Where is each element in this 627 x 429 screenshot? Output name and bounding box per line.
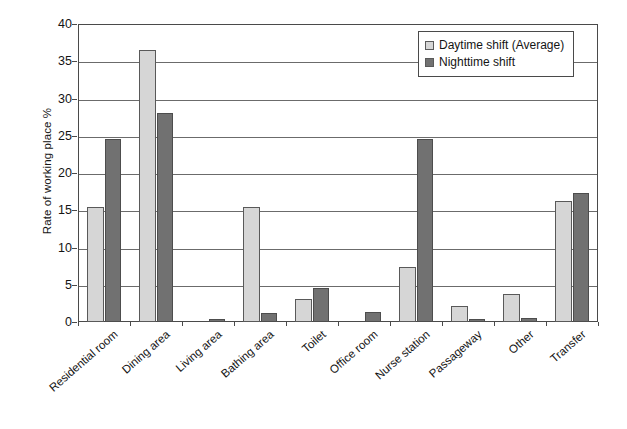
- bar: [87, 207, 104, 322]
- bar: [417, 139, 434, 322]
- x-axis-label: Dining area: [120, 328, 172, 376]
- y-tick-mark: [72, 61, 77, 62]
- bar: [313, 288, 330, 322]
- y-tick-mark: [72, 210, 77, 211]
- y-tick-mark: [72, 136, 77, 137]
- bar: [573, 193, 590, 322]
- y-tick-mark: [72, 285, 77, 286]
- y-tick-label: 5: [42, 278, 72, 292]
- y-tick-mark: [72, 99, 77, 100]
- bar-group: [182, 24, 234, 322]
- x-axis-label-text: Bathing area: [219, 328, 276, 380]
- x-axis-label: Other: [506, 328, 536, 356]
- bar: [139, 50, 156, 322]
- y-tick-label: 40: [42, 17, 72, 31]
- x-tick-mark: [598, 322, 599, 326]
- x-axis-label-text: Nurse station: [373, 328, 432, 382]
- bar: [243, 207, 260, 322]
- legend-label: Daytime shift (Average): [439, 39, 564, 52]
- legend-swatch-icon: [425, 41, 434, 50]
- y-tick-label: 0: [42, 315, 72, 329]
- bar: [157, 113, 174, 322]
- bar-group: [78, 24, 130, 322]
- x-axis-label-text: Residential room: [47, 328, 120, 394]
- x-axis-labels: Residential roomDining areaLiving areaBa…: [78, 322, 598, 429]
- bar-group: [286, 24, 338, 322]
- bar: [365, 312, 382, 322]
- legend-item: Nighttime shift: [425, 54, 564, 71]
- legend-swatch-icon: [425, 58, 434, 67]
- legend-item: Daytime shift (Average): [425, 37, 564, 54]
- bar: [105, 139, 122, 322]
- bar-group: [130, 24, 182, 322]
- x-axis-label-text: Dining area: [120, 328, 172, 376]
- x-axis-label-text: Toilet: [300, 328, 328, 355]
- x-axis-label: Passageway: [427, 328, 484, 380]
- x-axis-label: Bathing area: [219, 328, 276, 380]
- x-axis-label: Residential room: [47, 328, 120, 394]
- y-tick-mark: [72, 24, 77, 25]
- bar-group: [234, 24, 286, 322]
- y-tick-label: 25: [42, 129, 72, 143]
- y-tick-mark: [72, 248, 77, 249]
- y-tick-label: 15: [42, 203, 72, 217]
- y-tick-label: 30: [42, 92, 72, 106]
- bar: [399, 267, 416, 322]
- x-axis-label-text: Passageway: [427, 328, 484, 380]
- x-axis-label: Nurse station: [373, 328, 432, 382]
- y-tick-label: 35: [42, 54, 72, 68]
- legend-label: Nighttime shift: [439, 56, 515, 69]
- x-axis-label-text: Other: [506, 328, 536, 356]
- x-axis-label-text: Living area: [174, 328, 224, 374]
- bar: [451, 306, 468, 322]
- x-axis-label: Transfer: [548, 328, 588, 365]
- bar: [295, 299, 312, 322]
- bar: [261, 313, 278, 322]
- bar-chart: Rate of working place % 0510152025303540…: [0, 0, 627, 429]
- chart-legend: Daytime shift (Average)Nighttime shift: [418, 31, 574, 77]
- x-axis-label: Office room: [327, 328, 380, 376]
- y-axis-ticks: 0510152025303540: [38, 24, 72, 322]
- y-tick-label: 20: [42, 166, 72, 180]
- bar: [555, 201, 572, 322]
- bar-group: [338, 24, 390, 322]
- x-axis-label: Toilet: [300, 328, 328, 355]
- y-tick-mark: [72, 322, 77, 323]
- x-axis-label-text: Office room: [327, 328, 380, 376]
- x-axis-label: Living area: [174, 328, 224, 374]
- y-tick-mark: [72, 173, 77, 174]
- x-axis-label-text: Transfer: [548, 328, 588, 365]
- bar: [503, 294, 520, 322]
- y-tick-label: 10: [42, 241, 72, 255]
